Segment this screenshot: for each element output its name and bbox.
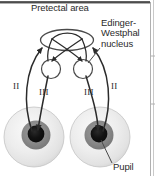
nerve-label-left-oculomotor: III bbox=[39, 88, 49, 98]
posterior-commissure-arc bbox=[52, 33, 82, 39]
right-eye bbox=[70, 107, 130, 167]
edinger-westphal-label-line2: Westphal bbox=[101, 28, 140, 38]
nerve-label-right-optic: II bbox=[111, 82, 118, 92]
nerve-label-right-oculomotor: III bbox=[84, 88, 94, 98]
panel-divider bbox=[151, 0, 156, 176]
edinger-westphal-nucleus-left bbox=[42, 60, 61, 79]
left-eye-pupil bbox=[28, 126, 45, 143]
nerve-label-left-optic: II bbox=[13, 82, 20, 92]
pretectal-to-ew-direct-right bbox=[82, 39, 86, 61]
pupillary-light-reflex-diagram: Pretectal area Edinger- Westphal nucleus… bbox=[0, 0, 155, 176]
edinger-westphal-nucleus-right bbox=[74, 60, 93, 79]
pretectal-area-label: Pretectal area bbox=[31, 3, 89, 13]
edinger-westphal-label-line3: nucleus bbox=[101, 39, 140, 49]
edinger-westphal-label: Edinger- Westphal nucleus bbox=[101, 18, 140, 49]
right-eye-pupil bbox=[91, 126, 108, 143]
pretectal-to-ew-direct-left bbox=[48, 39, 52, 61]
left-eye bbox=[4, 107, 64, 167]
pupil-label: Pupil bbox=[113, 162, 134, 172]
